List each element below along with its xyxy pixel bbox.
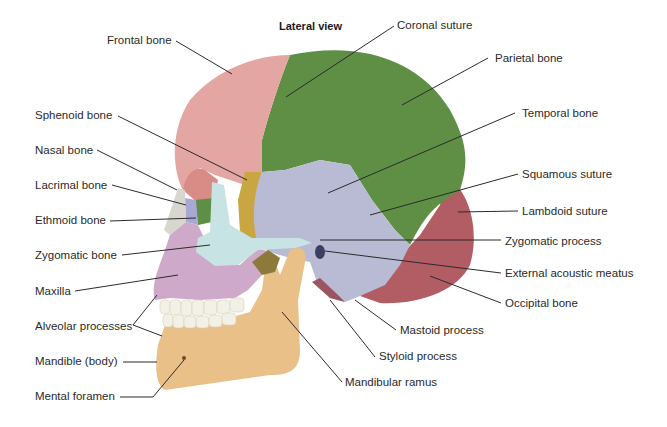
label-sphenoid-bone: Sphenoid bone — [35, 109, 112, 122]
ethmoid-bone-shape — [195, 198, 213, 225]
label-nasal-bone: Nasal bone — [35, 144, 93, 157]
label-coronal-suture: Coronal suture — [397, 19, 472, 32]
label-zygomatic-bone: Zygomatic bone — [35, 249, 117, 262]
external-acoustic-meatus-shape — [315, 245, 325, 259]
label-temporal-bone: Temporal bone — [522, 107, 598, 120]
label-lambdoid-suture: Lambdoid suture — [522, 205, 608, 218]
label-frontal-bone: Frontal bone — [107, 34, 172, 47]
skull-diagram: Lateral view Frontal bone Coronal suture… — [0, 0, 667, 427]
label-mandible-body: Mandible (body) — [35, 355, 117, 368]
mental-foramen-shape — [182, 356, 186, 360]
label-mandibular-ramus: Mandibular ramus — [345, 376, 437, 389]
label-mastoid-process: Mastoid process — [400, 324, 484, 337]
label-parietal-bone: Parietal bone — [495, 52, 563, 65]
label-lacrimal-bone: Lacrimal bone — [35, 179, 107, 192]
view-title: Lateral view — [279, 20, 342, 32]
label-alveolar-processes: Alveolar processes — [35, 320, 132, 333]
label-styloid-process: Styloid process — [379, 350, 457, 363]
label-zygomatic-process: Zygomatic process — [505, 235, 602, 248]
lacrimal-bone-shape — [185, 198, 198, 225]
label-squamous-suture: Squamous suture — [522, 168, 612, 181]
label-mental-foramen: Mental foramen — [35, 390, 115, 403]
label-ethmoid-bone: Ethmoid bone — [35, 214, 106, 227]
label-occipital-bone: Occipital bone — [505, 297, 578, 310]
teeth — [160, 298, 244, 328]
label-external-acoustic-meatus: External acoustic meatus — [505, 267, 633, 280]
label-maxilla: Maxilla — [35, 285, 71, 298]
